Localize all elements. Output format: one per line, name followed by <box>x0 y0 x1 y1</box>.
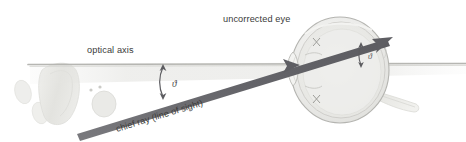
diagram-canvas: ϑ ϑ optical axis uncorrected eye chief r… <box>0 0 466 142</box>
ghost-dot-left <box>89 88 92 91</box>
uncorrected-eye-label: uncorrected eye <box>223 14 290 24</box>
angle-arrow-left-head-bottom <box>160 93 167 100</box>
vitreous-body <box>303 29 381 115</box>
optical-axis-group <box>28 62 466 84</box>
eye-optics-diagram: ϑ ϑ optical axis uncorrected eye chief r… <box>0 0 466 142</box>
chief-ray-label: chief ray (line of sight) <box>115 98 204 134</box>
ghost-aperture-disc <box>92 91 116 117</box>
optical-axis-line <box>28 64 466 65</box>
optical-axis-label: optical axis <box>87 45 134 55</box>
ghost-dot-right <box>98 85 101 88</box>
